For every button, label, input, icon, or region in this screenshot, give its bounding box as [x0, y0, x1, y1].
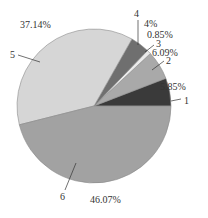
category-label-5: 5	[10, 49, 15, 60]
pie-chart: 15.85%26.09%30.85%44%537.14%646.07%	[0, 0, 208, 218]
category-label-4: 4	[134, 8, 139, 19]
value-label-5: 37.14%	[20, 19, 51, 30]
value-label-3: 0.85%	[147, 29, 173, 40]
value-label-6: 46.07%	[90, 194, 121, 205]
category-label-1: 1	[184, 95, 189, 106]
value-label-1: 5.85%	[160, 81, 186, 92]
leader-line-1	[171, 99, 181, 101]
category-label-6: 6	[60, 191, 65, 202]
pie-slices	[17, 29, 171, 183]
value-label-4: 4%	[144, 18, 157, 29]
